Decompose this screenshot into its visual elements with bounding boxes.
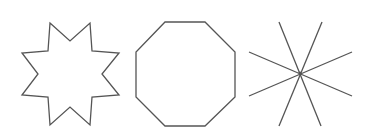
asterisk-center-dot (299, 72, 302, 75)
shapes-canvas (0, 0, 370, 136)
